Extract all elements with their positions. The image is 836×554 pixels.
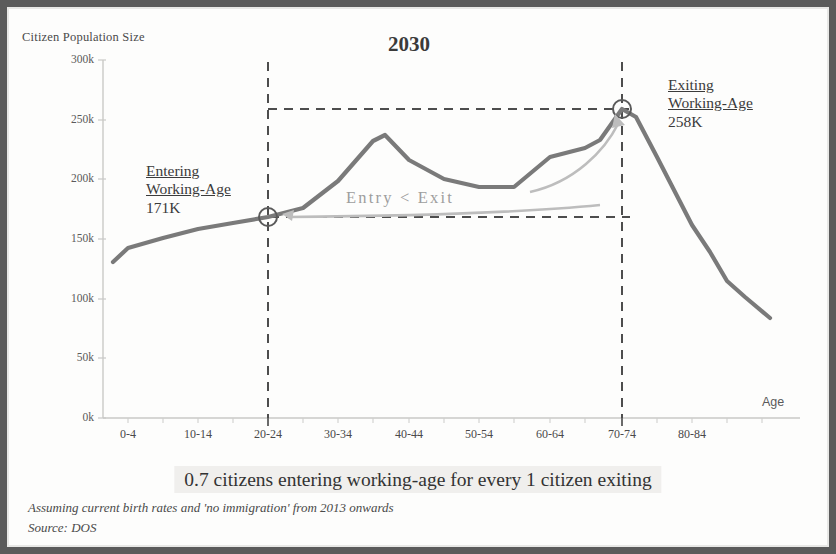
annotation-exiting-value: 258K [668,113,753,131]
y-tick-label-50k: 50k [52,351,94,365]
x-tick-label-40-44: 40-44 [395,427,423,441]
y-tick-label-100k: 100k [52,292,94,306]
x-tick-marks [128,418,762,426]
annotation-exiting-line2: Working-Age [668,94,753,112]
annotation-exiting-working-age: Exiting Working-Age 258K [668,76,753,131]
annotation-entry-less-than-exit: Entry < Exit [346,188,454,207]
footnote-source: Source: DOS [28,520,96,535]
annotation-entering-value: 171K [146,199,231,217]
annotation-entering-line1: Entering [146,162,231,180]
x-tick-label-50-54: 50-54 [465,427,493,441]
footnote-assumption: Assuming current birth rates and 'no imm… [28,500,394,515]
y-tick-label-200k: 200k [52,172,94,186]
chart-canvas: Citizen Population Size 2030 300k 250k 2… [0,0,836,554]
y-tick-label-300k: 300k [52,53,94,67]
y-tick-label-150k: 150k [52,232,94,246]
x-tick-label-10-14: 10-14 [184,427,212,441]
x-tick-label-70-74: 70-74 [608,427,636,441]
annotation-entering-line2: Working-Age [146,180,231,198]
figure-caption: 0.7 citizens entering working-age for ev… [174,466,661,493]
x-tick-label-0-4: 0-4 [120,427,136,441]
slide-figure: Citizen Population Size 2030 300k 250k 2… [0,0,836,554]
x-tick-label-80-84: 80-84 [678,427,706,441]
chart-title: 2030 [388,32,430,57]
y-tick-label-250k: 250k [52,113,94,127]
annotation-exiting-line1: Exiting [668,76,753,94]
annotation-entering-working-age: Entering Working-Age 171K [146,162,231,217]
y-tick-label-0k: 0k [52,411,94,425]
x-tick-label-60-64: 60-64 [536,427,564,441]
x-tick-label-20-24: 20-24 [254,427,282,441]
x-tick-label-30-34: 30-34 [324,427,352,441]
x-axis-title: Age [762,395,784,410]
y-axis-title: Citizen Population Size [22,30,145,45]
y-tick-marks [98,60,106,418]
